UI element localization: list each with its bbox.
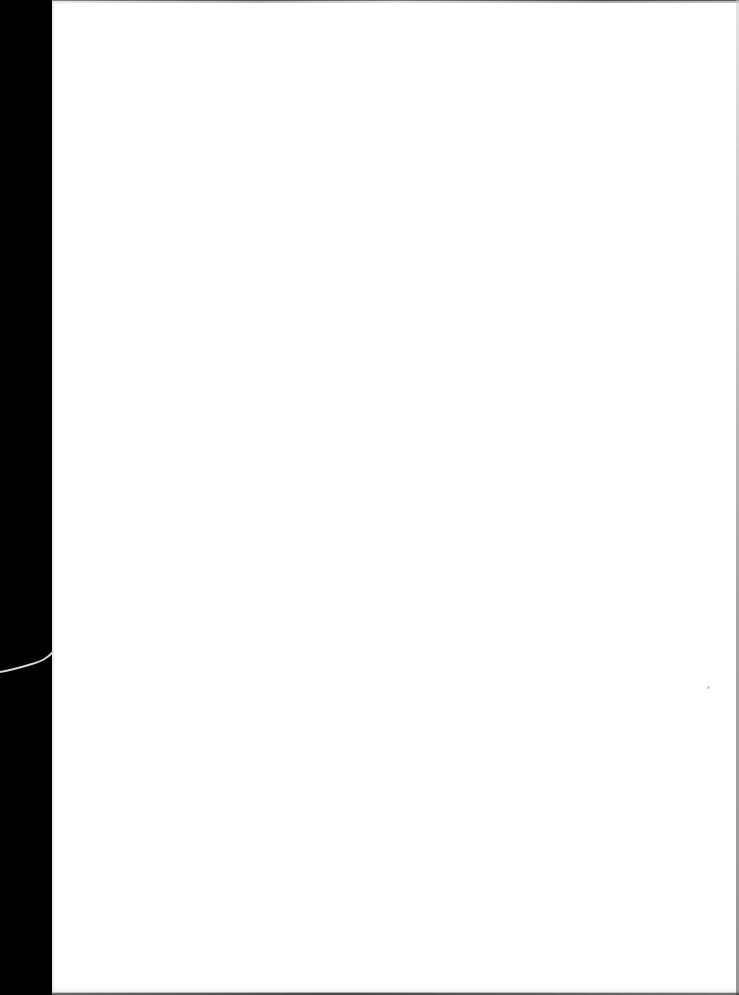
paper-top-edge-shadow [52, 0, 739, 3]
paper-sheet [52, 1, 739, 993]
dust-speck [707, 686, 710, 689]
hair-fiber [0, 640, 60, 680]
